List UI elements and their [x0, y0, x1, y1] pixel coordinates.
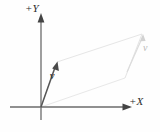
figure-canvas	[0, 0, 160, 132]
arrow-up-icon	[38, 13, 45, 23]
vector-v-origin-label: v	[50, 70, 54, 81]
parallelogram-edge-top	[57, 34, 142, 62]
vector-v-translated-shaft	[127, 36, 143, 72]
translation-parallelogram	[41, 34, 142, 107]
vector-v-translated-label: v	[143, 42, 147, 53]
y-axis	[38, 13, 45, 120]
vector-v-origin	[41, 62, 59, 108]
x-axis	[10, 104, 132, 111]
vector-diagram-figure: +Y +X v v	[0, 0, 160, 132]
parallelogram-edge-bottom	[41, 78, 125, 107]
vector-v-translated	[127, 34, 146, 72]
x-axis-label: +X	[129, 95, 143, 107]
y-axis-label: +Y	[25, 2, 39, 14]
